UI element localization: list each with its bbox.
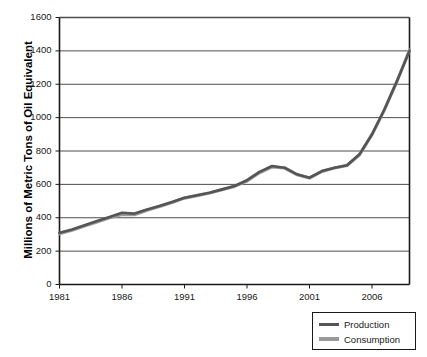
x-tick-label: 1996 [227,292,267,302]
legend-label-consumption: Consumption [344,334,400,345]
series-line-consumption [60,50,410,234]
y-tick-label: 0 [18,279,52,289]
legend-swatch-consumption [319,337,339,341]
y-tick-label: 1400 [18,45,52,55]
x-tick-label: 2001 [290,292,330,302]
y-tick-label: 400 [18,212,52,222]
y-tick-label: 600 [18,179,52,189]
legend-item-consumption: Consumption [319,332,400,346]
y-tick-label: 1000 [18,112,52,122]
series-line-production [60,51,410,233]
y-tick-label: 800 [18,146,52,156]
legend-swatch-production [319,323,339,326]
chart-legend: Production Consumption [312,312,416,350]
y-tick-label: 1600 [18,12,52,22]
legend-label-production: Production [344,319,389,330]
chart-plot-area [0,0,427,357]
x-tick-label: 1991 [165,292,205,302]
y-tick-label: 200 [18,246,52,256]
x-tick-label: 1981 [40,292,80,302]
y-tick-label: 1200 [18,79,52,89]
chart-container: Millions of Metric Tons of Oil Equivalen… [0,0,427,357]
x-tick-label: 2006 [352,292,392,302]
x-tick-label: 1986 [102,292,142,302]
legend-item-production: Production [319,317,389,331]
